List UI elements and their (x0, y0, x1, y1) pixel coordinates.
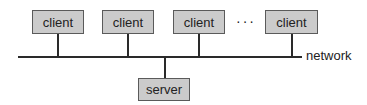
network-bus-line (18, 56, 302, 58)
network-label: network (306, 49, 352, 62)
client-node-3: client (173, 10, 225, 34)
client-2-connector (127, 34, 129, 57)
server-node: server (138, 78, 190, 101)
server-connector (164, 56, 166, 78)
client-node-label: client (43, 15, 73, 30)
ellipsis: ··· (236, 14, 256, 28)
client-4-connector (291, 34, 293, 57)
client-node-label: client (113, 15, 143, 30)
client-node-label: client (276, 15, 306, 30)
client-node-label: client (184, 15, 214, 30)
client-node-4: client (265, 10, 318, 34)
client-1-connector (57, 34, 59, 57)
client-3-connector (198, 34, 200, 57)
server-node-label: server (146, 82, 182, 97)
client-node-1: client (32, 10, 84, 34)
client-node-2: client (102, 10, 154, 34)
